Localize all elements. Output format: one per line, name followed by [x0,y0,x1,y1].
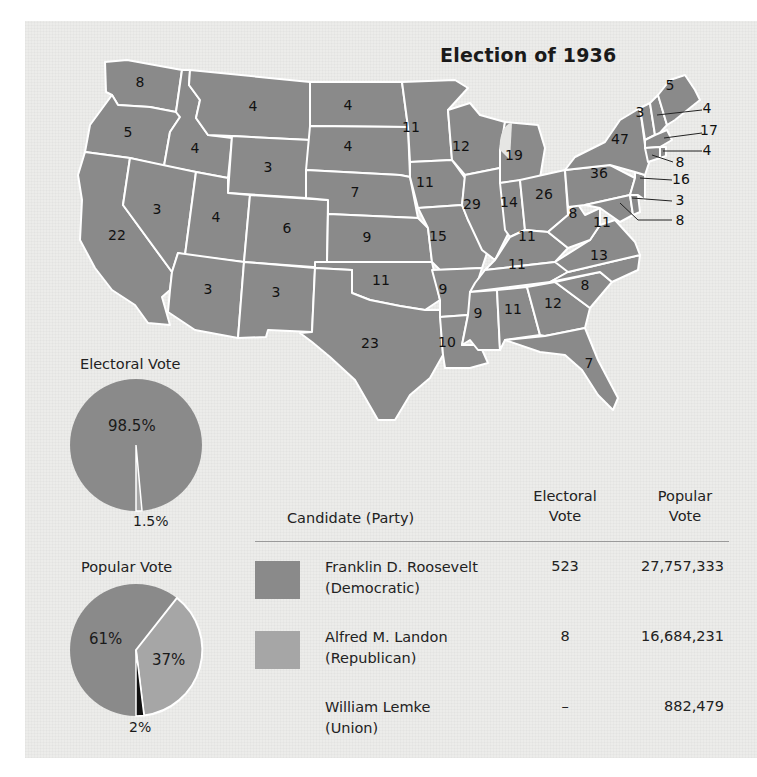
state-north-dakota [310,82,408,127]
electoral-vote-cell: – [525,698,605,714]
candidate-cell: Alfred M. Landon (Republican) [325,627,448,669]
ev-label-missouri: 15 [429,228,447,244]
ev-label-south-dakota: 4 [344,138,353,154]
state-rhode-island [660,147,666,158]
ev-label-north-dakota: 4 [344,97,353,113]
ev-label-texas: 23 [361,335,379,351]
ev-label-alabama: 11 [504,301,522,317]
ev-label-wyoming: 3 [264,159,273,175]
ev-label-new-york: 47 [611,131,629,147]
ev-label-new-hampshire: 4 [703,100,712,116]
table-header-divider [255,541,729,542]
candidate-cell: Franklin D. Roosevelt (Democratic) [325,557,478,599]
ev-label-michigan: 19 [505,147,523,163]
ev-label-california: 22 [108,227,126,243]
ev-label-colorado: 6 [283,220,292,236]
ev-label-kentucky: 11 [518,228,536,244]
popular-vote-pie [70,584,202,716]
ev-label-arizona: 3 [204,281,213,297]
header-candidate: Candidate (Party) [287,508,414,528]
ev-label-vermont: 3 [636,104,645,120]
ev-label-maine: 5 [666,77,675,93]
header-electoral-line1: Electoral [525,486,605,506]
electoral-vote-pie [70,379,202,511]
popular-vote-pie-title: Popular Vote [81,559,172,575]
ev-label-florida: 7 [585,355,594,371]
header-electoral-vote: Electoral Vote [525,486,605,526]
ev-label-nebraska: 7 [351,184,360,200]
ev-label-rhode-island: 4 [703,142,712,158]
popular-pie-label-union: 2% [129,719,151,735]
popular-pie-label-dem: 61% [89,630,122,648]
ev-label-virginia: 11 [593,214,611,230]
header-popular-line1: Popular [645,486,725,506]
popular-vote-cell: 882,479 [664,698,724,714]
ev-label-mississippi: 9 [474,305,483,321]
state-south-dakota [306,126,410,177]
ev-label-north-carolina: 13 [590,247,608,263]
ev-label-new-mexico: 3 [272,284,281,300]
ev-label-idaho: 4 [191,140,200,156]
popular-pie-label-rep: 37% [152,651,185,669]
ev-label-nevada: 3 [153,201,162,217]
candidate-name: William Lemke [325,697,430,718]
ev-label-iowa: 11 [416,174,434,190]
electoral-pie-label-major: 98.5% [108,417,156,435]
state-new-mexico [238,262,315,338]
ev-label-west-virginia: 8 [569,205,578,221]
ev-label-oklahoma: 11 [372,272,390,288]
state-maine [658,75,700,125]
ev-label-illinois: 29 [463,196,481,212]
legend-swatch-democratic [255,561,300,599]
candidate-name: Franklin D. Roosevelt [325,557,478,578]
header-electoral-line2: Vote [525,506,605,526]
ev-label-new-jersey: 16 [672,171,690,187]
header-popular-line2: Vote [645,506,725,526]
ev-label-maryland: 8 [676,212,685,228]
ev-label-wisconsin: 12 [452,138,470,154]
ev-label-utah: 4 [212,209,221,225]
ev-label-connecticut: 8 [676,154,685,170]
electoral-pie-label-minor: 1.5% [133,513,169,529]
ev-label-oregon: 5 [124,124,133,140]
popular-vote-cell: 27,757,333 [641,558,724,574]
state-kansas [327,214,432,262]
ev-label-ohio: 26 [535,186,553,202]
ev-label-kansas: 9 [363,229,372,245]
ev-label-arkansas: 9 [439,281,448,297]
electoral-vote-cell: 8 [525,628,605,644]
ev-label-louisiana: 10 [438,334,456,350]
ev-label-south-carolina: 8 [581,277,590,293]
ev-label-delaware: 3 [676,192,685,208]
ev-label-montana: 4 [249,98,258,114]
legend-swatch-republican [255,631,300,669]
ev-label-georgia: 12 [544,295,562,311]
ev-label-massachusetts: 17 [700,122,718,138]
candidate-party: (Union) [325,718,430,739]
ev-label-tennessee: 11 [508,256,526,272]
electoral-vote-pie-title: Electoral Vote [80,356,180,372]
ev-label-minnesota: 11 [402,119,420,135]
state-connecticut [645,147,660,162]
ev-label-indiana: 14 [500,194,518,210]
popular-vote-cell: 16,684,231 [641,628,724,644]
electoral-vote-cell: 523 [525,558,605,574]
state-florida [505,328,618,410]
candidate-name: Alfred M. Landon [325,627,448,648]
candidate-party: (Republican) [325,648,448,669]
map-title: Election of 1936 [440,44,616,66]
candidate-party: (Democratic) [325,578,478,599]
ev-label-pennsylvania: 36 [590,165,608,181]
ev-label-washington: 8 [136,74,145,90]
header-popular-vote: Popular Vote [645,486,725,526]
candidate-cell: William Lemke (Union) [325,697,430,739]
